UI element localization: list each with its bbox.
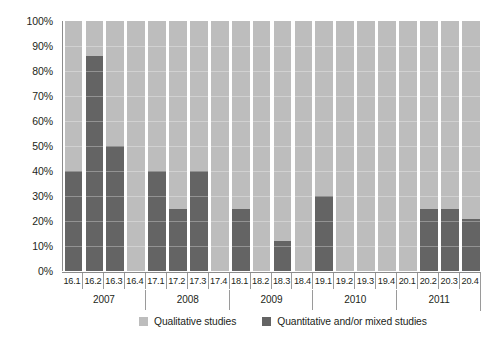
bar-stack[interactable]: [295, 21, 313, 271]
y-axis-tick-label: 30%: [32, 190, 53, 202]
year-label: 2011: [397, 289, 481, 311]
legend-item[interactable]: Quantitative and/or mixed studies: [262, 316, 427, 327]
bar-segment-qualitative[interactable]: [253, 21, 271, 271]
bar-segment-quantitative[interactable]: [169, 209, 187, 272]
bar-segment-qualitative[interactable]: [336, 21, 354, 271]
x-axis-quarter-labels: 16.116.216.316.417.117.217.317.418.118.2…: [62, 272, 481, 289]
bar-column[interactable]: [63, 21, 84, 271]
bar-column[interactable]: [84, 21, 105, 271]
y-axis-tick-label: 40%: [32, 165, 53, 177]
bar-segment-qualitative[interactable]: [315, 21, 333, 196]
bar-column[interactable]: [230, 21, 251, 271]
legend-item[interactable]: Qualitative studies: [139, 316, 236, 327]
bar-stack[interactable]: [148, 21, 166, 271]
bar-segment-quantitative[interactable]: [232, 209, 250, 272]
bar-segment-quantitative[interactable]: [65, 171, 83, 271]
quarter-label: 18.3: [272, 273, 293, 289]
bar-column[interactable]: [418, 21, 439, 271]
bar-column[interactable]: [251, 21, 272, 271]
bar-segment-qualitative[interactable]: [169, 21, 187, 209]
bar-stack[interactable]: [336, 21, 354, 271]
quarter-label: 17.3: [188, 273, 209, 289]
bar-stack[interactable]: [86, 21, 104, 271]
bar-column[interactable]: [272, 21, 293, 271]
bar-stack[interactable]: [211, 21, 229, 271]
bar-segment-quantitative[interactable]: [106, 146, 124, 271]
y-axis: 100%90%80%70%60%50%40%30%20%10%0%: [0, 16, 60, 277]
bar-column[interactable]: [335, 21, 356, 271]
quarter-label: 20.2: [418, 273, 439, 289]
bar-stack[interactable]: [315, 21, 333, 271]
bar-stack[interactable]: [253, 21, 271, 271]
bar-segment-qualitative[interactable]: [357, 21, 375, 271]
bar-segment-quantitative[interactable]: [86, 56, 104, 271]
bar-segment-qualitative[interactable]: [274, 21, 292, 241]
bar-segment-quantitative[interactable]: [441, 209, 459, 272]
bar-stack[interactable]: [65, 21, 83, 271]
bar-segment-qualitative[interactable]: [86, 21, 104, 56]
bar-stack[interactable]: [106, 21, 124, 271]
y-axis-tick-label: 90%: [32, 40, 53, 52]
bar-column[interactable]: [356, 21, 377, 271]
bar-column[interactable]: [147, 21, 168, 271]
bar-stack[interactable]: [190, 21, 208, 271]
bar-segment-qualitative[interactable]: [378, 21, 396, 271]
bar-column[interactable]: [209, 21, 230, 271]
y-axis-tick-label: 100%: [27, 15, 53, 27]
bar-segment-qualitative[interactable]: [420, 21, 438, 209]
bar-segment-qualitative[interactable]: [295, 21, 313, 271]
bar-column[interactable]: [439, 21, 460, 271]
bar-segment-qualitative[interactable]: [190, 21, 208, 171]
year-label: 2010: [313, 289, 397, 311]
year-label: 2007: [62, 289, 146, 311]
bar-stack[interactable]: [399, 21, 417, 271]
bar-column[interactable]: [377, 21, 398, 271]
bar-column[interactable]: [105, 21, 126, 271]
bar-segment-qualitative[interactable]: [127, 21, 145, 271]
quarter-label: 20.1: [397, 273, 418, 289]
bar-segment-qualitative[interactable]: [65, 21, 83, 171]
bar-segment-qualitative[interactable]: [462, 21, 480, 219]
x-axis-year-labels: 20072008200920102011: [62, 289, 481, 311]
bar-column[interactable]: [293, 21, 314, 271]
bar-column[interactable]: [398, 21, 419, 271]
bar-stack[interactable]: [462, 21, 480, 271]
bar-segment-quantitative[interactable]: [148, 171, 166, 271]
bar-column[interactable]: [168, 21, 189, 271]
bar-stack[interactable]: [420, 21, 438, 271]
quarter-label: 18.1: [230, 273, 251, 289]
bar-column[interactable]: [188, 21, 209, 271]
quarter-label: 16.2: [83, 273, 104, 289]
bar-stack[interactable]: [274, 21, 292, 271]
bar-segment-quantitative[interactable]: [274, 241, 292, 271]
quarter-label: 17.1: [146, 273, 167, 289]
bar-column[interactable]: [314, 21, 335, 271]
bar-segment-qualitative[interactable]: [106, 21, 124, 146]
quarter-label: 18.4: [292, 273, 313, 289]
bar-stack[interactable]: [169, 21, 187, 271]
bar-segment-quantitative[interactable]: [462, 219, 480, 272]
bar-stack[interactable]: [357, 21, 375, 271]
dark-gray-swatch: [262, 317, 271, 326]
legend-label: Quantitative and/or mixed studies: [277, 316, 427, 327]
bar-stack[interactable]: [441, 21, 459, 271]
bar-segment-qualitative[interactable]: [441, 21, 459, 209]
bar-column[interactable]: [126, 21, 147, 271]
bars-container: [63, 21, 481, 271]
quarter-label: 17.2: [167, 273, 188, 289]
quarter-label: 18.2: [251, 273, 272, 289]
bar-segment-qualitative[interactable]: [211, 21, 229, 271]
bar-stack[interactable]: [378, 21, 396, 271]
bar-segment-qualitative[interactable]: [399, 21, 417, 271]
bar-stack[interactable]: [232, 21, 250, 271]
bar-segment-quantitative[interactable]: [420, 209, 438, 272]
bar-column[interactable]: [460, 21, 481, 271]
bar-segment-quantitative[interactable]: [315, 196, 333, 271]
plot-area: [62, 21, 481, 271]
bar-segment-qualitative[interactable]: [232, 21, 250, 209]
light-gray-swatch: [139, 317, 148, 326]
bar-segment-qualitative[interactable]: [148, 21, 166, 171]
y-axis-tick-label: 80%: [32, 65, 53, 77]
bar-stack[interactable]: [127, 21, 145, 271]
bar-segment-quantitative[interactable]: [190, 171, 208, 271]
